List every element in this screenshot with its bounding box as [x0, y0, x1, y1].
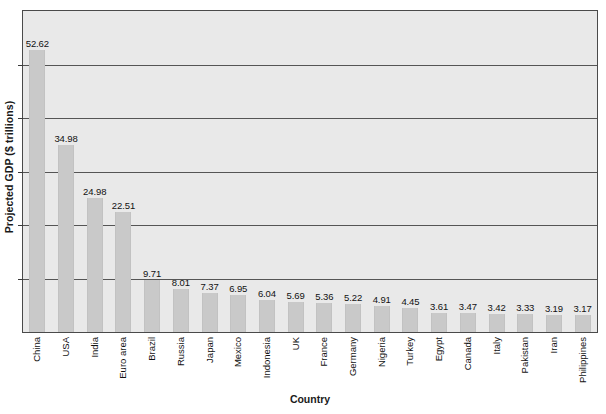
x-tick-label-text: USA — [60, 337, 71, 357]
x-tick-label-italy: Italy — [488, 335, 504, 391]
x-tick-label-france: France — [315, 335, 331, 391]
x-tick-label-turkey: Turkey — [401, 335, 417, 391]
bar — [345, 304, 361, 332]
bar — [230, 295, 246, 332]
bar-item: 4.45 — [402, 11, 418, 332]
bar-value-label: 6.04 — [258, 288, 276, 299]
x-tick-label-text: Pakistan — [519, 337, 530, 373]
bar-value-label: 3.47 — [459, 301, 477, 312]
x-tick-label-usa: USA — [57, 335, 73, 391]
plot-area: 52.6234.9824.9822.519.718.017.376.956.04… — [22, 10, 598, 333]
bar-value-label: 52.62 — [26, 38, 49, 49]
bar-item: 9.71 — [144, 11, 160, 332]
x-tick-label-mexico: Mexico — [229, 335, 245, 391]
x-tick-label-pakistan: Pakistan — [516, 335, 532, 391]
bar-value-label: 5.22 — [344, 292, 362, 303]
x-tick-label-text: Nigeria — [375, 337, 386, 367]
bar-value-label: 9.71 — [143, 268, 161, 279]
x-tick-label-text: Mexico — [232, 337, 243, 367]
x-tick-label-text: UK — [289, 337, 300, 350]
gdp-bar-chart: Projected GDP ($ trillions) 52.6234.9824… — [0, 0, 606, 414]
x-tick-label-philippines: Philippines — [574, 335, 590, 391]
x-axis-tick-labels: ChinaUSAIndiaEuro areaBrazilRussiaJapanM… — [22, 335, 598, 391]
bar-item: 8.01 — [173, 11, 189, 332]
bar-item: 22.51 — [115, 11, 131, 332]
x-tick-label-iran: Iran — [545, 335, 561, 391]
bar-value-label: 4.45 — [401, 296, 419, 307]
bar-value-label: 4.91 — [373, 294, 391, 305]
x-tick-label-germany: Germany — [344, 335, 360, 391]
bar-value-label: 3.17 — [574, 303, 592, 314]
bar — [87, 198, 103, 332]
bar — [546, 315, 562, 332]
bar-item: 3.17 — [575, 11, 591, 332]
bar-item: 6.04 — [259, 11, 275, 332]
bar-value-label: 34.98 — [54, 133, 77, 144]
bar — [29, 50, 45, 332]
bar-value-label: 24.98 — [83, 186, 106, 197]
x-tick-label-euro-area: Euro area — [114, 335, 130, 391]
bar — [517, 314, 533, 332]
bar — [259, 300, 275, 332]
bar-item: 5.22 — [345, 11, 361, 332]
x-tick-label-text: Philippines — [576, 337, 587, 383]
y-axis-title: Projected GDP ($ trillions) — [0, 0, 18, 333]
bar-value-label: 3.61 — [430, 301, 448, 312]
bar — [202, 293, 218, 332]
bar — [173, 289, 189, 332]
x-tick-label-text: China — [31, 337, 42, 362]
bar-value-label: 8.01 — [172, 277, 190, 288]
bar — [115, 212, 131, 332]
x-tick-label-text: Turkey — [404, 337, 415, 366]
bar-item: 34.98 — [58, 11, 74, 332]
x-tick-label-egypt: Egypt — [430, 335, 446, 391]
x-tick-label-japan: Japan — [201, 335, 217, 391]
x-tick-label-text: Iran — [547, 337, 558, 353]
x-tick-label-nigeria: Nigeria — [373, 335, 389, 391]
bar — [460, 313, 476, 332]
x-tick-label-text: Egypt — [433, 337, 444, 361]
bar-item: 5.69 — [288, 11, 304, 332]
bar-item: 24.98 — [87, 11, 103, 332]
bar — [144, 280, 160, 332]
x-tick-label-text: Indonesia — [260, 337, 271, 378]
bar-value-label: 5.69 — [287, 290, 305, 301]
bar-series: 52.6234.9824.9822.519.718.017.376.956.04… — [23, 11, 597, 332]
bar-item: 7.37 — [202, 11, 218, 332]
x-tick-label-text: Italy — [490, 337, 501, 354]
y-axis-title-text: Projected GDP ($ trillions) — [3, 100, 15, 233]
bar — [575, 315, 591, 332]
bar — [402, 308, 418, 332]
x-tick-label-text: Germany — [347, 337, 358, 376]
x-tick-label-text: Russia — [174, 337, 185, 366]
x-tick-label-india: India — [86, 335, 102, 391]
bar-value-label: 3.33 — [516, 302, 534, 313]
bar-value-label: 3.19 — [545, 303, 563, 314]
bar-item: 6.95 — [230, 11, 246, 332]
bar-value-label: 22.51 — [112, 200, 135, 211]
x-tick-label-indonesia: Indonesia — [258, 335, 274, 391]
bar — [288, 302, 304, 332]
bar-item: 5.36 — [316, 11, 332, 332]
bar-item: 52.62 — [29, 11, 45, 332]
x-tick-label-text: India — [88, 337, 99, 358]
bar-item: 3.33 — [517, 11, 533, 332]
x-tick-label-uk: UK — [287, 335, 303, 391]
bar-item: 3.47 — [460, 11, 476, 332]
bar — [431, 313, 447, 332]
bar-item: 3.61 — [431, 11, 447, 332]
bar-item: 3.42 — [489, 11, 505, 332]
x-tick-label-brazil: Brazil — [143, 335, 159, 391]
bar-value-label: 6.95 — [229, 283, 247, 294]
bar-value-label: 3.42 — [487, 302, 505, 313]
x-tick-label-china: China — [28, 335, 44, 391]
x-tick-label-text: Brazil — [146, 337, 157, 361]
x-tick-label-text: Canada — [461, 337, 472, 370]
bar — [58, 145, 74, 332]
bar-item: 3.19 — [546, 11, 562, 332]
bar — [489, 314, 505, 332]
x-tick-label-canada: Canada — [459, 335, 475, 391]
bar-value-label: 7.37 — [200, 281, 218, 292]
x-tick-label-text: France — [318, 337, 329, 367]
x-tick-label-text: Euro area — [117, 337, 128, 379]
